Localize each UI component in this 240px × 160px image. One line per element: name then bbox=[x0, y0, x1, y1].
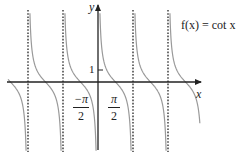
half-pi-numerator: π bbox=[108, 93, 120, 105]
y-tick-label-1: 1 bbox=[89, 64, 95, 75]
half-pi-denominator: 2 bbox=[108, 110, 120, 122]
y-axis-label: y bbox=[89, 1, 94, 13]
fraction-bar bbox=[108, 107, 120, 108]
neg-half-pi-numerator: −π bbox=[73, 93, 89, 105]
tick-label-neg-half-pi: −π 2 bbox=[73, 93, 89, 122]
fraction-bar bbox=[73, 107, 89, 108]
function-label-text: f(x) = cot x bbox=[181, 18, 235, 32]
neg-half-pi-denominator: 2 bbox=[73, 110, 89, 122]
tick-label-half-pi: π 2 bbox=[108, 93, 120, 122]
cot-branch bbox=[8, 79, 26, 150]
function-label: f(x) = cot x bbox=[181, 19, 235, 31]
x-axis-label: x bbox=[196, 88, 201, 100]
